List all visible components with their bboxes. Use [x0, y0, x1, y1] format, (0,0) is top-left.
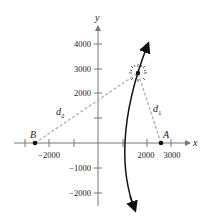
d2-dashed-line: [35, 73, 138, 143]
d1-label: d1: [153, 103, 162, 117]
hyperbola-branch: [125, 44, 148, 210]
d2-label: d2: [56, 106, 65, 120]
x-tick-label-3000: 3000: [164, 150, 181, 160]
diagram-svg: x y −2000 2000 3000 4000 3000 2000 −1000…: [0, 0, 210, 219]
y-tick-label-2000: 2000: [74, 88, 91, 98]
hyperbola-diagram: x y −2000 2000 3000 4000 3000 2000 −1000…: [0, 0, 210, 219]
y-axis-label: y: [94, 12, 100, 23]
source-point: [136, 71, 140, 75]
y-tick-label-neg1000: −1000: [69, 163, 91, 173]
x-axis-label: x: [192, 137, 198, 148]
x-tick-label-2000: 2000: [138, 150, 155, 160]
point-A-label: A: [162, 129, 170, 140]
point-B: [33, 141, 38, 146]
y-tick-label-3000: 3000: [74, 64, 91, 74]
point-A: [159, 141, 164, 146]
y-tick-label-neg2000: −2000: [69, 188, 91, 198]
y-tick-label-4000: 4000: [74, 39, 91, 49]
hyperbola-arrow-down: [130, 196, 135, 210]
x-tick-label-neg2000: −2000: [38, 150, 60, 160]
point-B-label: B: [30, 129, 36, 140]
